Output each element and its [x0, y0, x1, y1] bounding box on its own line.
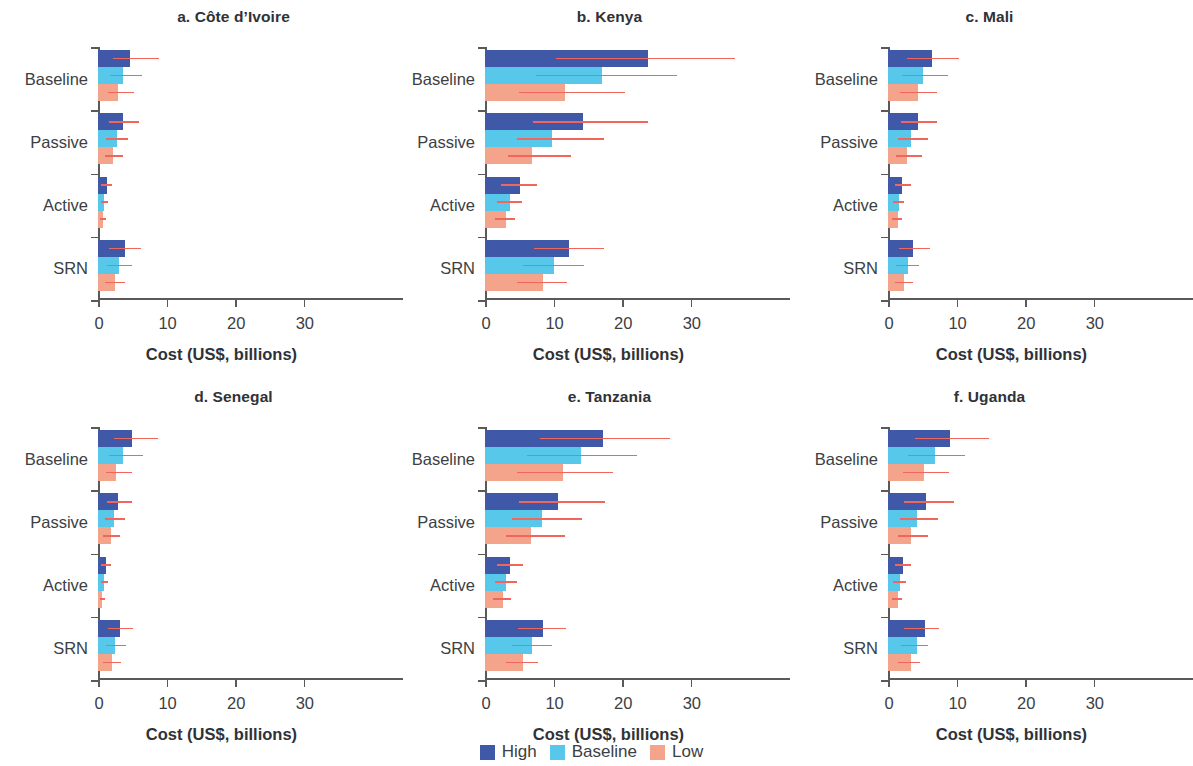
error-bar	[105, 518, 125, 520]
error-bar	[893, 581, 905, 583]
error-bar	[517, 472, 612, 474]
error-bar	[101, 184, 112, 186]
x-axis-tick	[1094, 299, 1096, 307]
error-bar	[899, 248, 930, 250]
y-axis-category-label: Baseline	[815, 449, 878, 468]
x-axis-line	[98, 678, 403, 680]
panel-e: e. Tanzania 0102030Cost (US$, billions)B…	[395, 380, 780, 766]
x-axis-tick-label: 20	[614, 694, 632, 713]
y-axis-tick	[478, 110, 485, 112]
y-axis-tick	[881, 617, 888, 619]
y-axis-tick	[478, 680, 485, 682]
y-axis-tick	[91, 490, 98, 492]
x-axis-line	[485, 298, 790, 300]
x-axis-tick	[888, 679, 890, 687]
y-axis-category-label: Baseline	[412, 69, 475, 88]
x-axis-tick	[691, 679, 693, 687]
legend-label: Baseline	[572, 742, 637, 762]
error-bar	[512, 518, 582, 520]
error-bar	[495, 581, 517, 583]
error-bar	[109, 248, 141, 250]
error-bar	[895, 564, 911, 566]
y-axis-tick	[881, 554, 888, 556]
y-axis-category-label: Active	[430, 196, 475, 215]
y-axis-category-label: Active	[833, 196, 878, 215]
error-bar	[896, 155, 921, 157]
y-axis-category-label: SRN	[440, 639, 475, 658]
error-bar	[902, 75, 948, 77]
x-axis-tick-label: 20	[227, 314, 245, 333]
error-bar	[109, 455, 143, 457]
x-axis-caption: Cost (US$, billions)	[888, 345, 1135, 364]
error-bar	[103, 662, 120, 664]
x-axis-tick-label: 10	[545, 314, 563, 333]
error-bar	[512, 645, 552, 647]
error-bar	[536, 75, 677, 77]
x-axis-tick	[304, 679, 306, 687]
x-axis-tick-label: 0	[884, 694, 893, 713]
x-axis-tick	[98, 299, 100, 307]
y-axis-tick	[881, 300, 888, 302]
x-axis-tick	[304, 299, 306, 307]
error-bar	[534, 248, 604, 250]
error-bar	[896, 265, 919, 267]
chart-legend: HighBaselineLow	[0, 742, 1183, 762]
error-bar	[898, 662, 920, 664]
panel-f-plot: 0102030Cost (US$, billions)BaselinePassi…	[888, 427, 1135, 680]
panel-f: f. Uganda 0102030Cost (US$, billions)Bas…	[780, 380, 1183, 766]
y-axis-tick	[478, 554, 485, 556]
panel-c-title: c. Mali	[780, 8, 1191, 26]
x-axis-tick-label: 0	[94, 314, 103, 333]
y-axis-tick	[881, 110, 888, 112]
y-axis-category-label: SRN	[440, 259, 475, 278]
legend-item: High	[480, 742, 537, 762]
error-bar	[901, 121, 937, 123]
error-bar	[519, 501, 605, 503]
error-bar	[506, 535, 564, 537]
y-axis-tick	[91, 174, 98, 176]
x-axis-tick-label: 10	[158, 314, 176, 333]
y-axis-category-label: Passive	[30, 512, 88, 531]
error-bar	[900, 518, 938, 520]
error-bar	[556, 58, 735, 60]
y-axis-tick	[881, 174, 888, 176]
legend-swatch-icon	[550, 745, 565, 760]
y-axis-tick	[91, 300, 98, 302]
x-axis-tick	[888, 299, 890, 307]
x-axis-tick	[98, 679, 100, 687]
y-axis-tick	[478, 300, 485, 302]
error-bar	[101, 581, 108, 583]
x-axis-line	[888, 298, 1193, 300]
x-axis-tick	[957, 679, 959, 687]
legend-item: Low	[650, 742, 703, 762]
x-axis-tick	[554, 299, 556, 307]
error-bar	[109, 121, 139, 123]
panel-c-plot: 0102030Cost (US$, billions)BaselinePassi…	[888, 47, 1135, 300]
panel-a-plot: 0102030Cost (US$, billions)BaselinePassi…	[98, 47, 345, 300]
x-axis-tick-label: 20	[1017, 314, 1035, 333]
y-axis-category-label: Baseline	[25, 69, 88, 88]
error-bar	[106, 138, 128, 140]
y-axis-category-label: Passive	[820, 132, 878, 151]
panel-b-title: b. Kenya	[395, 8, 802, 26]
error-bar	[106, 645, 127, 647]
error-bar	[100, 218, 106, 220]
x-axis-caption: Cost (US$, billions)	[98, 345, 345, 364]
y-axis-category-label: SRN	[53, 639, 88, 658]
x-axis-tick-label: 0	[481, 694, 490, 713]
x-axis-tick-label: 20	[1017, 694, 1035, 713]
panel-a-title: a. Côte d’Ivoire	[0, 8, 431, 26]
error-bar	[497, 564, 523, 566]
error-bar	[898, 138, 928, 140]
legend-label: Low	[672, 742, 703, 762]
x-axis-tick	[691, 299, 693, 307]
x-axis-line	[888, 678, 1193, 680]
y-axis-tick	[478, 237, 485, 239]
y-axis-category-label: Baseline	[412, 449, 475, 468]
legend-swatch-icon	[650, 745, 665, 760]
x-axis-line	[98, 298, 403, 300]
error-bar	[517, 138, 604, 140]
y-axis-tick	[881, 237, 888, 239]
y-axis-category-label: Baseline	[815, 69, 878, 88]
